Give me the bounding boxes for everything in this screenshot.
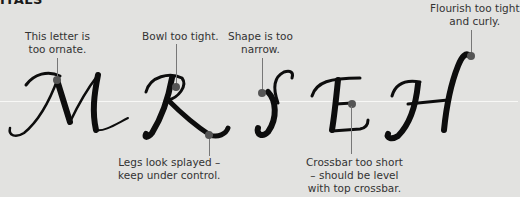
leader-line xyxy=(209,136,210,156)
letter-e xyxy=(312,78,368,131)
annotation-r-bowl: Bowl too tight. xyxy=(142,30,219,43)
annotation-r-legs: Legs look splayed – keep under control. xyxy=(118,156,220,182)
marker-dot xyxy=(348,100,356,108)
leader-line xyxy=(351,106,352,154)
letter-m xyxy=(10,73,128,136)
marker-dot xyxy=(467,52,475,60)
annotation-s: Shape is too narrow. xyxy=(228,30,293,56)
letter-r xyxy=(145,75,228,137)
marker-dot xyxy=(53,76,61,84)
leader-line xyxy=(176,44,177,86)
marker-dot xyxy=(258,89,266,97)
marker-dot xyxy=(172,83,180,91)
annotation-h: Flourish too tight and curly. xyxy=(430,2,520,28)
marker-dot xyxy=(205,131,213,139)
letter-h xyxy=(388,54,470,138)
annotation-m: This letter is too ornate. xyxy=(25,30,90,56)
annotation-e: Crossbar too short – should be level wit… xyxy=(306,156,403,195)
leader-line xyxy=(471,30,472,54)
leader-line xyxy=(262,58,263,92)
